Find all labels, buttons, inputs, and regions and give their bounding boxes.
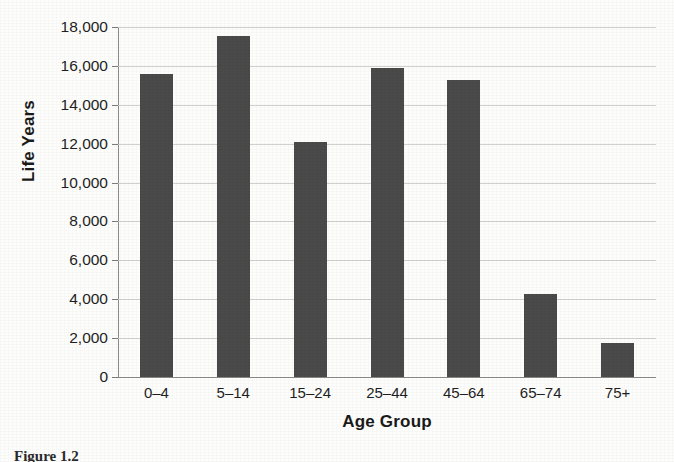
- x-axis-tick-label: 45–64: [426, 384, 502, 401]
- gridline: [118, 66, 656, 67]
- x-axis-tick-label: 65–74: [503, 384, 579, 401]
- plot-area: [118, 27, 656, 377]
- y-axis-tick-label: 14,000: [0, 97, 108, 113]
- y-axis-tick-label: 10,000: [0, 175, 108, 191]
- bar: [601, 343, 634, 377]
- y-axis-tick-label: 4,000: [0, 291, 108, 307]
- figure-caption: Figure 1.2: [14, 448, 79, 462]
- y-axis-tick-label: 18,000: [0, 19, 108, 35]
- bar: [140, 74, 173, 377]
- x-axis-tick-label: 75+: [580, 384, 656, 401]
- bar: [217, 36, 250, 377]
- x-axis-tick-label: 25–44: [349, 384, 425, 401]
- x-axis-tick-label: 0–4: [118, 384, 194, 401]
- bar: [447, 80, 480, 378]
- bar-chart-figure: Life Years 18,00016,00014,00012,00010,00…: [0, 0, 674, 462]
- x-axis-tick-label: 15–24: [272, 384, 348, 401]
- bar: [294, 142, 327, 377]
- x-axis-title: Age Group: [118, 412, 656, 432]
- x-axis-tick-label: 5–14: [195, 384, 271, 401]
- y-axis-tick-label: 2,000: [0, 330, 108, 346]
- y-axis-tick-label: 12,000: [0, 136, 108, 152]
- y-axis-tick-label: 6,000: [0, 252, 108, 268]
- y-axis-tick-label: 0: [0, 369, 108, 385]
- gridline: [118, 377, 656, 378]
- bar: [524, 294, 557, 377]
- gridline: [118, 27, 656, 28]
- bar: [371, 68, 404, 377]
- y-axis-tick-label: 16,000: [0, 58, 108, 74]
- y-axis-tick-label: 8,000: [0, 213, 108, 229]
